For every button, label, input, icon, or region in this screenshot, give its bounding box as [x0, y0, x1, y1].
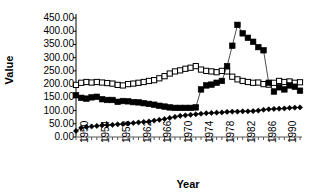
marker-open-square: [105, 80, 110, 85]
marker-filled-diamond: [110, 122, 115, 127]
marker-filled-square: [292, 84, 298, 90]
marker-filled-diamond: [178, 113, 183, 118]
marker-open-square: [183, 66, 188, 71]
marker-filled-square: [297, 88, 303, 94]
marker-filled-square: [73, 92, 79, 98]
marker-filled-square: [224, 63, 230, 69]
marker-filled-diamond: [183, 113, 188, 118]
marker-filled-diamond: [131, 120, 136, 125]
marker-filled-diamond: [172, 114, 177, 119]
marker-filled-diamond: [261, 107, 266, 112]
marker-filled-diamond: [167, 115, 172, 120]
marker-filled-square: [261, 47, 267, 53]
chart-container: Value 0.0050.00100.00150.00200.00250.003…: [0, 0, 316, 195]
marker-open-square: [209, 69, 214, 74]
marker-filled-diamond: [73, 128, 78, 133]
marker-filled-diamond: [198, 111, 203, 116]
marker-filled-square: [120, 98, 126, 104]
marker-open-square: [256, 80, 261, 85]
marker-filled-square: [84, 96, 90, 102]
marker-filled-square: [276, 84, 282, 90]
marker-filled-diamond: [224, 109, 229, 114]
marker-open-square: [84, 79, 89, 84]
marker-open-square: [99, 80, 104, 85]
marker-filled-diamond: [84, 124, 89, 129]
marker-filled-square: [203, 83, 209, 89]
marker-filled-square: [125, 99, 131, 105]
marker-open-square: [219, 68, 224, 73]
marker-open-square: [172, 69, 177, 74]
marker-open-square: [297, 80, 302, 85]
marker-filled-square: [229, 43, 235, 49]
marker-filled-diamond: [282, 106, 287, 111]
marker-filled-diamond: [162, 116, 167, 121]
marker-filled-square: [167, 105, 173, 111]
marker-filled-square: [219, 78, 225, 84]
marker-filled-square: [78, 95, 84, 101]
marker-filled-diamond: [251, 108, 256, 113]
x-axis-title-label: Year: [176, 178, 199, 190]
marker-filled-square: [104, 97, 110, 103]
marker-filled-square: [282, 87, 288, 93]
marker-open-square: [235, 77, 240, 82]
marker-filled-diamond: [157, 117, 162, 122]
marker-filled-square: [141, 100, 147, 106]
series-group: [73, 22, 303, 133]
marker-filled-square: [146, 101, 152, 107]
marker-filled-square: [287, 83, 293, 89]
marker-filled-square: [172, 105, 178, 111]
marker-open-square: [204, 68, 209, 73]
marker-filled-square: [177, 105, 183, 111]
marker-filled-square: [250, 39, 256, 45]
marker-open-square: [141, 79, 146, 84]
marker-open-square: [94, 79, 99, 84]
marker-open-square: [240, 78, 245, 83]
marker-filled-square: [198, 87, 204, 93]
marker-filled-square: [157, 103, 163, 109]
marker-open-square: [79, 80, 84, 85]
marker-open-square: [271, 80, 276, 85]
marker-filled-square: [245, 35, 251, 41]
marker-filled-square: [162, 104, 168, 110]
marker-open-square: [282, 79, 287, 84]
marker-filled-diamond: [105, 123, 110, 128]
marker-filled-square: [183, 105, 189, 111]
marker-filled-square: [110, 97, 116, 103]
x-axis-title: Year: [76, 178, 300, 190]
marker-filled-diamond: [115, 122, 120, 127]
marker-filled-square: [214, 80, 220, 86]
marker-filled-diamond: [89, 124, 94, 129]
marker-filled-square: [235, 22, 241, 28]
marker-filled-diamond: [193, 112, 198, 117]
marker-filled-diamond: [94, 123, 99, 128]
marker-filled-square: [131, 99, 137, 105]
marker-open-square: [110, 81, 115, 86]
marker-open-square: [136, 80, 141, 85]
marker-filled-square: [256, 44, 262, 50]
marker-open-square: [198, 67, 203, 72]
marker-filled-diamond: [245, 109, 250, 114]
marker-open-square: [251, 80, 256, 85]
marker-filled-diamond: [120, 121, 125, 126]
marker-open-square: [120, 83, 125, 88]
marker-filled-diamond: [287, 105, 292, 110]
marker-open-square: [261, 82, 266, 87]
marker-filled-square: [271, 89, 277, 95]
marker-filled-diamond: [256, 108, 261, 113]
marker-filled-diamond: [266, 107, 271, 112]
marker-open-square: [188, 65, 193, 70]
marker-filled-diamond: [240, 109, 245, 114]
marker-open-square: [245, 79, 250, 84]
marker-filled-square: [193, 105, 199, 111]
marker-filled-diamond: [219, 110, 224, 115]
plot-area: [0, 0, 316, 195]
marker-open-square: [162, 74, 167, 79]
marker-open-square: [167, 71, 172, 76]
marker-open-square: [152, 78, 157, 83]
marker-filled-diamond: [277, 106, 282, 111]
marker-open-square: [146, 78, 151, 83]
marker-filled-diamond: [204, 111, 209, 116]
marker-filled-diamond: [297, 105, 302, 110]
marker-open-square: [193, 64, 198, 69]
marker-filled-square: [188, 105, 194, 111]
